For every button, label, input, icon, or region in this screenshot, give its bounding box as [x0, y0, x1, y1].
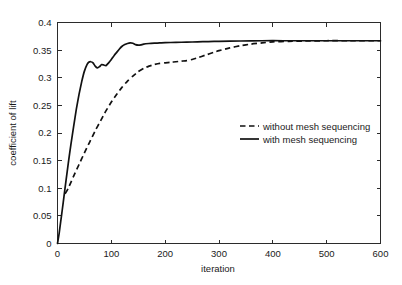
y-axis-title: coefficient of lift: [7, 100, 18, 166]
y-tick-label-0.3: 0.3: [38, 72, 51, 83]
figure-container: 0100200300400500600 00.050.10.150.20.250…: [0, 0, 402, 285]
legend: without mesh sequencing with mesh sequen…: [240, 121, 370, 145]
legend-label-with-mesh-sequencing: with mesh sequencing: [262, 134, 357, 145]
line-chart: 0100200300400500600 00.050.10.150.20.250…: [0, 0, 402, 285]
x-tick-label-300: 300: [211, 248, 227, 259]
y-tick-label-0.05: 0.05: [33, 210, 52, 221]
y-tick-label-0.2: 0.2: [38, 127, 51, 138]
x-axis-tick-labels: 0100200300400500600: [55, 248, 389, 259]
y-tick-label-0.4: 0.4: [38, 17, 51, 28]
x-tick-label-100: 100: [103, 248, 119, 259]
y-tick-label-0.25: 0.25: [33, 100, 52, 111]
x-tick-label-600: 600: [373, 248, 389, 259]
x-tick-label-400: 400: [265, 248, 281, 259]
y-tick-label-0: 0: [46, 238, 51, 249]
x-tick-label-0: 0: [55, 248, 60, 259]
legend-label-without-mesh-sequencing: without mesh sequencing: [262, 121, 370, 132]
y-tick-label-0.35: 0.35: [33, 45, 52, 56]
x-tick-label-500: 500: [319, 248, 335, 259]
y-tick-label-0.1: 0.1: [38, 183, 51, 194]
y-axis-tick-labels: 00.050.10.150.20.250.30.350.4: [33, 17, 52, 249]
x-axis-title: iteration: [201, 263, 235, 274]
x-tick-label-200: 200: [157, 248, 173, 259]
series-without-mesh-sequencing: [65, 41, 380, 194]
y-tick-label-0.15: 0.15: [33, 155, 52, 166]
